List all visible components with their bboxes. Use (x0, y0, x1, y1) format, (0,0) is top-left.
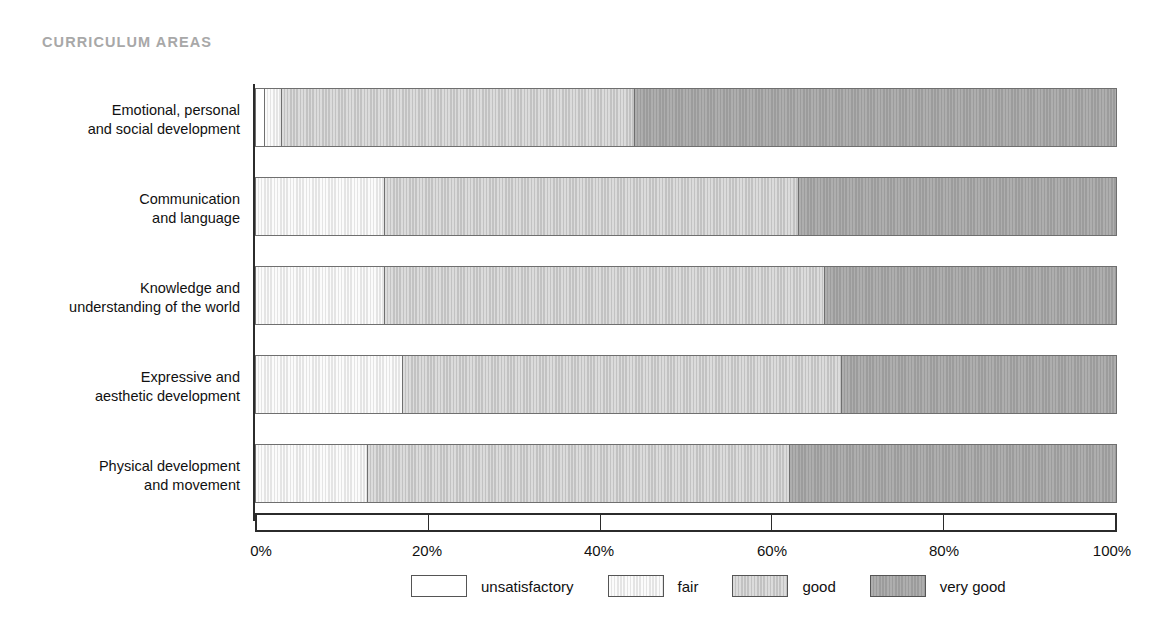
category-label-line: and social development (0, 120, 240, 139)
category-label-physical: Physical development and movement (0, 457, 240, 495)
category-label-line: Knowledge and (0, 279, 240, 298)
bar-row[interactable] (255, 266, 1117, 325)
bar-segment-very-good (824, 266, 1117, 325)
legend-label: fair (678, 578, 699, 595)
bar-segment-good (384, 266, 824, 325)
bar-segment-fair (255, 444, 367, 503)
bar-segment-good (384, 177, 798, 236)
x-tick-label-20: 20% (412, 542, 442, 559)
x-axis-tick-cell (429, 515, 601, 530)
bar-segment-very-good (789, 444, 1117, 503)
bar-segment-very-good (634, 88, 1117, 147)
legend-item-good[interactable]: good (732, 575, 835, 597)
bar-segment-good (367, 444, 789, 503)
bar-segment-fair (255, 177, 384, 236)
category-label-line: and movement (0, 476, 240, 495)
x-tick-label-60: 60% (757, 542, 787, 559)
legend-swatch-very-good (870, 575, 926, 597)
category-label-emotional: Emotional, personal and social developme… (0, 101, 240, 139)
x-axis-tick-cell (944, 515, 1115, 530)
bar-row[interactable] (255, 177, 1117, 236)
x-tick-label-80: 80% (929, 542, 959, 559)
chart-legend: unsatisfactory fair good very good (411, 575, 1006, 597)
bar-segment-very-good (798, 177, 1117, 236)
stacked-bar-chart: Emotional, personal and social developme… (0, 0, 1170, 626)
legend-item-very-good[interactable]: very good (870, 575, 1006, 597)
x-tick-label-0: 0% (250, 542, 272, 559)
legend-label: very good (940, 578, 1006, 595)
bar-segment-unsatisfactory (255, 88, 264, 147)
category-label-communication: Communication and language (0, 190, 240, 228)
category-label-line: Emotional, personal (0, 101, 240, 120)
legend-swatch-unsatisfactory (411, 575, 467, 597)
x-tick-label-100: 100% (1093, 542, 1131, 559)
bar-segment-fair (255, 355, 402, 414)
category-label-line: and language (0, 209, 240, 228)
legend-item-fair[interactable]: fair (608, 575, 699, 597)
x-axis-tick-cell (772, 515, 944, 530)
bar-segment-fair (264, 88, 281, 147)
bar-segment-very-good (841, 355, 1117, 414)
bar-segment-good (281, 88, 634, 147)
bar-segment-good (402, 355, 842, 414)
bar-row[interactable] (255, 444, 1117, 503)
x-tick-label-40: 40% (584, 542, 614, 559)
category-label-line: Expressive and (0, 368, 240, 387)
category-label-expressive: Expressive and aesthetic development (0, 368, 240, 406)
x-axis-tick-cell (601, 515, 773, 530)
category-label-line: understanding of the world (0, 298, 240, 317)
legend-label: good (802, 578, 835, 595)
category-label-line: Communication (0, 190, 240, 209)
category-label-line: Physical development (0, 457, 240, 476)
legend-swatch-good (732, 575, 788, 597)
category-label-knowledge: Knowledge and understanding of the world (0, 279, 240, 317)
legend-swatch-fair (608, 575, 664, 597)
x-axis-tick-cell (257, 515, 429, 530)
category-label-line: aesthetic development (0, 387, 240, 406)
legend-label: unsatisfactory (481, 578, 574, 595)
bar-segment-fair (255, 266, 384, 325)
legend-item-unsatisfactory[interactable]: unsatisfactory (411, 575, 574, 597)
bar-row[interactable] (255, 88, 1117, 147)
bar-row[interactable] (255, 355, 1117, 414)
x-axis-scale-bar (255, 513, 1117, 532)
